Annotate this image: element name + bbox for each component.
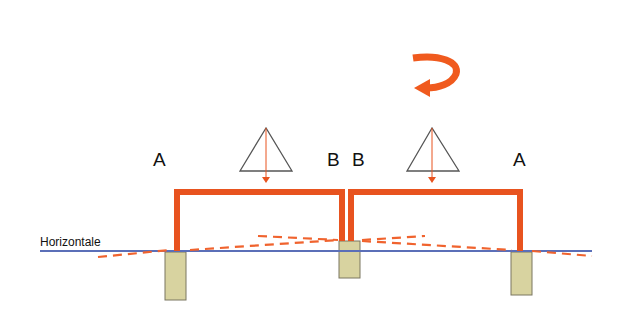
- foundation-right: [511, 252, 532, 295]
- load-triangle-left: [240, 128, 292, 183]
- foundation-left: [165, 252, 186, 300]
- label-b-left: B: [327, 149, 340, 170]
- label-b-right: B: [352, 149, 365, 170]
- label-a-left: A: [153, 149, 166, 170]
- rotation-arrow-icon: [413, 57, 457, 97]
- label-a-right: A: [513, 149, 526, 170]
- load-triangle-right: [407, 128, 459, 183]
- frame-right: [351, 192, 520, 251]
- foundation-middle: [339, 241, 360, 278]
- horizontal-label: Horizontale: [40, 235, 101, 249]
- frame-settlement-diagram: A B B A Horizontale: [0, 0, 629, 320]
